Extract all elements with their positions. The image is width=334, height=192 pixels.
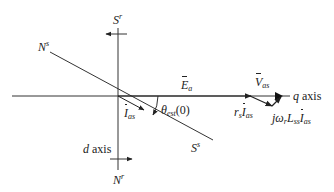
label-q-axis: q axis (293, 90, 321, 102)
label-s-s: Ss (191, 141, 200, 154)
theta-angle-arc (153, 96, 158, 115)
label-d-axis: d axis (83, 143, 111, 155)
label-v-as: Vas (255, 76, 269, 90)
label-jwl-ias: jωrLssIas (272, 112, 311, 126)
label-rs-ias: rsIas (234, 106, 253, 120)
label-i-as: Ias (124, 107, 135, 121)
label-n-s: Ns (38, 40, 49, 53)
resistive-drop-arrow (250, 96, 272, 106)
label-theta-est: θest(0) (161, 104, 190, 118)
phasor-diagram (0, 0, 334, 192)
label-n-r: Nr (113, 173, 124, 186)
label-s-r: Sr (113, 13, 122, 26)
label-e-a: Ea (181, 79, 192, 93)
